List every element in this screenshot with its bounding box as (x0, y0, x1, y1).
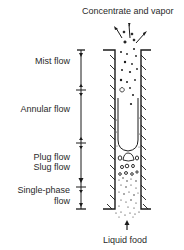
mist-droplets (120, 48, 138, 105)
liquid-stipple (115, 177, 139, 217)
wall-hatching-left (107, 55, 115, 209)
wall-hatching-right (141, 55, 148, 209)
plug-slug-bubbles (118, 153, 138, 175)
evaporator-tube-diagram (0, 0, 184, 250)
annular-film (118, 98, 138, 151)
spray-arrows-icon (114, 23, 147, 43)
annular-film-stipple (116, 118, 140, 148)
mist-ring-droplet (120, 88, 124, 92)
up-arrow-icon (125, 220, 130, 230)
dimension-line (76, 50, 86, 209)
